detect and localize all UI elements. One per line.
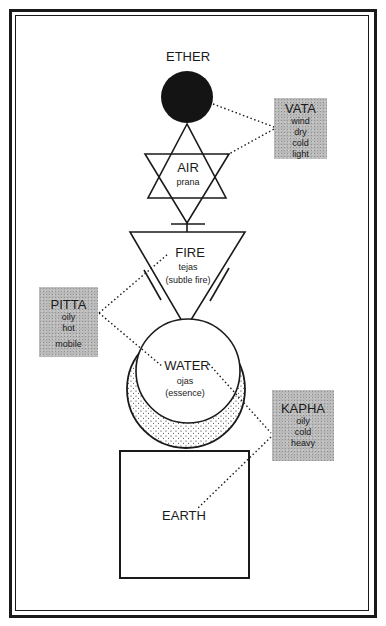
fire-subtitle-2: (subtle fire) <box>165 276 210 285</box>
water-subtitle: ojas <box>177 377 194 386</box>
pitta-quality: hot <box>39 323 98 334</box>
pitta-title: PITTA <box>39 297 98 312</box>
vata-quality: wind <box>274 116 327 127</box>
air-fire-connector <box>171 223 205 232</box>
vata-quality: light <box>274 149 327 160</box>
kapha-quality: cold <box>272 427 334 438</box>
ether-circle-icon <box>161 71 213 123</box>
kapha-quality: oily <box>272 416 334 427</box>
water-subtitle-2: (essence) <box>165 389 205 398</box>
air-label: AIR <box>177 161 199 174</box>
earth-label: EARTH <box>162 509 206 522</box>
vata-box: VATA wind dry cold light <box>274 98 327 159</box>
water-label: WATER <box>164 359 210 372</box>
pitta-box: PITTA oily hot mobile <box>39 287 98 357</box>
ether-label: ETHER <box>166 50 210 63</box>
vata-quality: cold <box>274 138 327 149</box>
fire-label: FIRE <box>175 246 205 259</box>
air-subtitle: prana <box>176 178 199 187</box>
fire-subtitle: tejas <box>178 263 197 272</box>
kapha-quality: heavy <box>272 438 334 449</box>
vata-title: VATA <box>274 101 327 116</box>
pitta-quality: oily <box>39 312 98 323</box>
pitta-quality: mobile <box>39 339 98 350</box>
vata-quality: dry <box>274 127 327 138</box>
kapha-box: KAPHA oily cold heavy <box>272 390 334 461</box>
kapha-title: KAPHA <box>272 401 334 416</box>
